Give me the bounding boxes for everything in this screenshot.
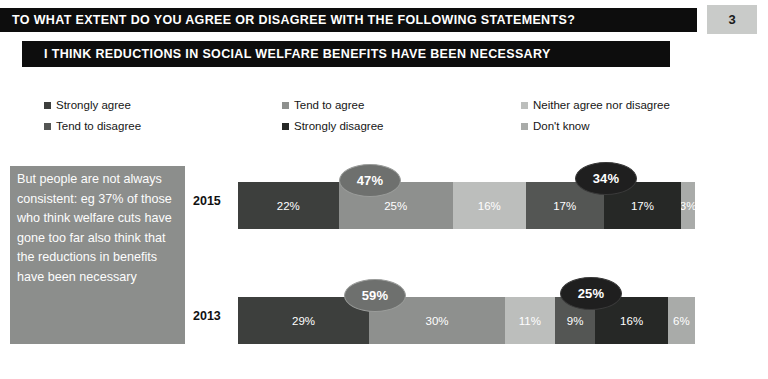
legend-label: Tend to disagree [56, 120, 141, 132]
bar-segment: 3% [681, 182, 695, 229]
bar-segment-label: 29% [292, 315, 315, 327]
legend-label: Tend to agree [294, 99, 364, 111]
callout-net-disagree-2015: 34% [575, 162, 637, 195]
bar-segment-label: 16% [478, 200, 501, 212]
bar-segment-label: 25% [384, 200, 407, 212]
bar-segment-label: 22% [277, 200, 300, 212]
callout-label: 34% [593, 171, 620, 186]
legend-item-tend-to-disagree: Tend to disagree [44, 120, 141, 132]
chart-statement-title: I THINK REDUCTIONS IN SOCIAL WELFARE BEN… [22, 47, 551, 61]
legend-item-strongly-agree: Strongly agree [44, 99, 131, 111]
page-title: TO WHAT EXTENT DO YOU AGREE OR DISAGREE … [0, 13, 575, 27]
legend-item-tend-to-agree: Tend to agree [282, 99, 364, 111]
bar-segment-label: 9% [567, 315, 584, 327]
legend-swatch-icon [521, 102, 528, 109]
bar-segment-label: 16% [620, 315, 643, 327]
legend-swatch-icon [44, 102, 51, 109]
page-number: 3 [728, 12, 735, 27]
callout-net-agree-2015: 47% [339, 164, 401, 197]
bar-segment-label: 6% [673, 315, 690, 327]
callout-net-agree-2013: 59% [344, 279, 406, 312]
legend-swatch-icon [282, 102, 289, 109]
legend-swatch-icon [521, 123, 528, 130]
callout-label: 59% [362, 288, 389, 303]
row-year-label: 2013 [193, 309, 235, 323]
callout-label: 47% [357, 173, 384, 188]
page-number-badge: 3 [707, 5, 757, 34]
bar-segment: 16% [453, 182, 526, 229]
bar-segment: 6% [668, 297, 695, 344]
slide-subtitle-bar: I THINK REDUCTIONS IN SOCIAL WELFARE BEN… [22, 41, 670, 67]
legend-label: Strongly agree [56, 99, 131, 111]
bar-segment-label: 30% [426, 315, 449, 327]
stacked-bar-2013: 29%30%11%9%16%6% [238, 297, 695, 344]
legend-label: Don't know [533, 120, 590, 132]
legend-label: Strongly disagree [294, 120, 384, 132]
bar-segment-label: 17% [553, 200, 576, 212]
bar-segment-label: 3% [681, 200, 695, 212]
callout-label: 25% [578, 286, 605, 301]
row-year-label: 2015 [193, 194, 235, 208]
callout-net-disagree-2013: 25% [560, 277, 622, 310]
chart-legend: Strongly agree Tend to disagree Tend to … [44, 99, 744, 145]
legend-item-dont-know: Don't know [521, 120, 590, 132]
bar-segment-label: 17% [631, 200, 654, 212]
legend-swatch-icon [282, 123, 289, 130]
bar-segment: 22% [238, 182, 339, 229]
legend-item-neither-agree-nor-disagree: Neither agree nor disagree [521, 99, 670, 111]
slide-title-bar: TO WHAT EXTENT DO YOU AGREE OR DISAGREE … [0, 8, 697, 32]
legend-swatch-icon [44, 123, 51, 130]
bar-segment-label: 11% [519, 315, 541, 327]
bar-segment: 11% [505, 297, 555, 344]
legend-label: Neither agree nor disagree [533, 99, 670, 111]
legend-item-strongly-disagree: Strongly disagree [282, 120, 384, 132]
stacked-bar-chart: 2015 22%25%16%17%17%3% 47% 34% 2013 29%3… [0, 150, 768, 365]
